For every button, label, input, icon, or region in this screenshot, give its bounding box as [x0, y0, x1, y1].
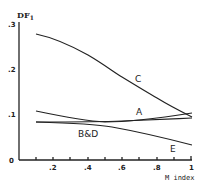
series-bd-label: B&D [78, 129, 98, 139]
series-bd-line [36, 118, 192, 122]
x-tick-label: .4 [84, 164, 92, 172]
series-e-label: E [170, 144, 176, 154]
x-tick-label: .6 [118, 164, 126, 172]
x-tick-label: 1 [189, 164, 194, 172]
y-tick-label: .2 [8, 66, 16, 74]
x-axis-label: M index [165, 174, 195, 182]
series-c-label: C [135, 74, 141, 84]
series-c-line [36, 34, 192, 117]
x-tick-label: .8 [153, 164, 161, 172]
line-chart: .2 .4 .6 .8 1 0 .1 .2 .3 DF1 M index C A… [0, 0, 206, 184]
y-tick-label: 0 [9, 157, 14, 165]
y-tick-label: .1 [8, 111, 16, 119]
series-e-line [36, 122, 192, 145]
series-a-line [36, 111, 192, 122]
y-axis-label: DF1 [17, 10, 34, 21]
x-tick-label: .2 [49, 164, 57, 172]
y-tick-label: .3 [8, 21, 16, 29]
series-a-label: A [136, 107, 143, 117]
